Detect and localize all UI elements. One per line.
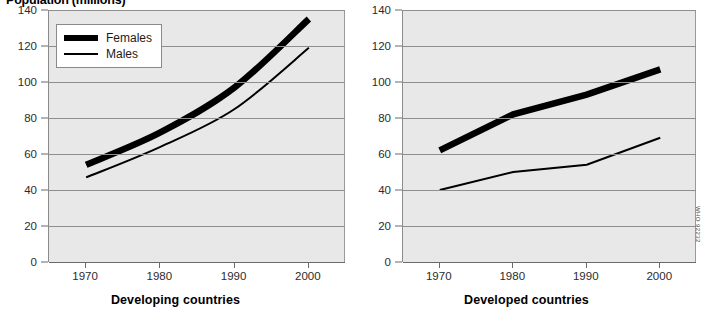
y-tick-mark-60 bbox=[41, 154, 48, 155]
y-tick-label-120: 120 bbox=[18, 40, 37, 52]
x-tick-mark-2000 bbox=[659, 262, 660, 268]
y-tick-mark-120 bbox=[41, 46, 48, 47]
x-tick-label-1970: 1970 bbox=[426, 270, 452, 282]
y-tick-label-20: 20 bbox=[24, 220, 37, 232]
x-tick-mark-1980 bbox=[512, 262, 513, 268]
y-tick-mark-40 bbox=[395, 190, 402, 191]
gridline-0 bbox=[403, 262, 696, 263]
gridline-100 bbox=[403, 82, 696, 83]
chart-figure: Population (millions) Females Males Deve… bbox=[0, 0, 702, 313]
x-tick-label-1980: 1980 bbox=[147, 270, 173, 282]
panel-developing-countries: Females Males Developing countries 02040… bbox=[0, 0, 351, 313]
y-tick-label-0: 0 bbox=[31, 256, 37, 268]
legend-item-males: Males bbox=[64, 46, 152, 62]
gridline-80 bbox=[49, 118, 345, 119]
image-credit: WHO 92232 bbox=[695, 206, 701, 243]
gridline-20 bbox=[49, 226, 345, 227]
y-tick-mark-140 bbox=[395, 10, 402, 11]
y-tick-mark-20 bbox=[41, 226, 48, 227]
series-layer-right bbox=[403, 10, 697, 262]
x-tick-mark-1990 bbox=[586, 262, 587, 268]
y-tick-label-80: 80 bbox=[378, 112, 391, 124]
y-tick-label-20: 20 bbox=[378, 220, 391, 232]
panel-caption-developed: Developed countries bbox=[351, 293, 702, 307]
gridline-60 bbox=[403, 154, 696, 155]
x-tick-label-2000: 2000 bbox=[646, 270, 672, 282]
legend-label-females: Females bbox=[106, 31, 152, 45]
legend-item-females: Females bbox=[64, 30, 152, 46]
y-tick-mark-40 bbox=[41, 190, 48, 191]
y-tick-mark-0 bbox=[395, 262, 402, 263]
x-tick-mark-1970 bbox=[439, 262, 440, 268]
gridline-40 bbox=[49, 190, 345, 191]
y-tick-mark-60 bbox=[395, 154, 402, 155]
x-tick-mark-1970 bbox=[85, 262, 86, 268]
plot-area-right bbox=[402, 10, 696, 262]
legend-label-males: Males bbox=[106, 47, 138, 61]
y-tick-mark-100 bbox=[41, 82, 48, 83]
y-tick-label-120: 120 bbox=[372, 40, 391, 52]
gridline-140 bbox=[49, 10, 345, 11]
y-tick-mark-100 bbox=[395, 82, 402, 83]
y-tick-mark-140 bbox=[41, 10, 48, 11]
x-tick-mark-1980 bbox=[159, 262, 160, 268]
y-tick-mark-0 bbox=[41, 262, 48, 263]
gridline-140 bbox=[403, 10, 696, 11]
x-tick-label-1970: 1970 bbox=[72, 270, 98, 282]
y-tick-label-100: 100 bbox=[18, 76, 37, 88]
y-tick-label-140: 140 bbox=[18, 4, 37, 16]
panel-caption-developing: Developing countries bbox=[0, 293, 351, 307]
gridline-120 bbox=[403, 46, 696, 47]
y-tick-mark-120 bbox=[395, 46, 402, 47]
x-tick-label-1990: 1990 bbox=[221, 270, 247, 282]
y-tick-label-0: 0 bbox=[385, 256, 391, 268]
x-tick-mark-1990 bbox=[234, 262, 235, 268]
x-tick-label-2000: 2000 bbox=[295, 270, 321, 282]
x-tick-label-1990: 1990 bbox=[573, 270, 599, 282]
y-tick-label-60: 60 bbox=[378, 148, 391, 160]
gridline-100 bbox=[49, 82, 345, 83]
y-tick-label-140: 140 bbox=[372, 4, 391, 16]
y-tick-mark-80 bbox=[41, 118, 48, 119]
series-line-males bbox=[440, 138, 661, 190]
y-tick-label-60: 60 bbox=[24, 148, 37, 160]
gridline-40 bbox=[403, 190, 696, 191]
x-tick-mark-2000 bbox=[308, 262, 309, 268]
y-tick-label-80: 80 bbox=[24, 112, 37, 124]
gridline-80 bbox=[403, 118, 696, 119]
y-tick-mark-20 bbox=[395, 226, 402, 227]
panel-developed-countries: Developed countries WHO 92232 0204060801… bbox=[351, 0, 702, 313]
chart-legend: Females Males bbox=[56, 24, 162, 68]
y-tick-mark-80 bbox=[395, 118, 402, 119]
gridline-60 bbox=[49, 154, 345, 155]
gridline-20 bbox=[403, 226, 696, 227]
y-tick-label-100: 100 bbox=[372, 76, 391, 88]
legend-swatch-males-icon bbox=[64, 53, 98, 55]
plot-right-border bbox=[344, 10, 345, 262]
y-tick-label-40: 40 bbox=[24, 184, 37, 196]
y-tick-label-40: 40 bbox=[378, 184, 391, 196]
legend-swatch-females-icon bbox=[64, 35, 98, 41]
x-tick-label-1980: 1980 bbox=[499, 270, 525, 282]
gridline-0 bbox=[49, 262, 345, 263]
